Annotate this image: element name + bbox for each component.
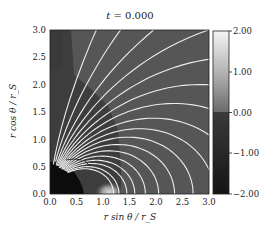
colorbar-tick: 0.00	[233, 108, 252, 118]
y-tick: 2.5	[28, 52, 46, 62]
x-tick: 1.5	[118, 197, 142, 207]
colorbar-tick: −1.00	[233, 148, 259, 158]
figure: t = 0.000	[0, 0, 278, 236]
colorbar-tick: −2.00	[233, 189, 259, 199]
x-tick: 0.0	[38, 197, 62, 207]
colorbar-ticks	[229, 31, 232, 194]
x-tick: 3.0	[197, 197, 221, 207]
y-tick: 1.0	[28, 135, 46, 145]
x-axis-label: r sin θ / r_S	[50, 212, 210, 222]
x-tick: 0.5	[65, 197, 89, 207]
x-tick: 2.0	[144, 197, 168, 207]
x-tick: 1.0	[91, 197, 115, 207]
y-tick: 2.0	[28, 80, 46, 90]
y-tick: 3.0	[28, 25, 46, 35]
y-axis-label: r cos θ / r_S	[8, 66, 18, 156]
y-tick: 1.5	[28, 107, 46, 117]
x-tick: 2.5	[171, 197, 195, 207]
colorbar	[213, 31, 229, 194]
y-tick: 0.5	[28, 162, 46, 172]
colorbar-tick: 1.00	[233, 67, 252, 77]
colorbar-tick: 2.00	[233, 26, 252, 36]
